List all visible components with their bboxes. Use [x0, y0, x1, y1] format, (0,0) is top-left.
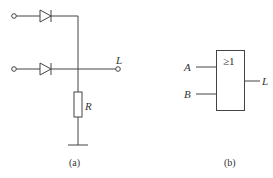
caption-a: (a) [69, 157, 80, 169]
diode-or-circuit [12, 10, 121, 145]
input-terminal-top [12, 14, 17, 19]
gate-symbol: ≥1 [223, 55, 235, 67]
diode-bottom-icon [40, 63, 51, 75]
output-terminal [116, 67, 121, 72]
output-label-a: L [115, 54, 122, 66]
resistor-label: R [84, 100, 92, 112]
input-a-label: A [183, 61, 191, 73]
caption-b: (b) [224, 157, 236, 169]
output-label-b: L [261, 75, 268, 87]
input-terminal-bottom [12, 67, 17, 72]
diode-top-icon [40, 10, 51, 22]
resistor-icon [74, 92, 82, 117]
diagram-canvas: L R (a) ≥1 A B L (b) [0, 0, 273, 178]
input-b-label: B [184, 88, 191, 100]
